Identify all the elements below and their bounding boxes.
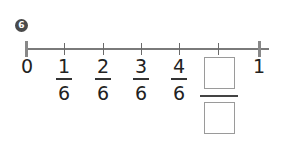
label-zero: 0 xyxy=(21,55,33,77)
fraction-bar xyxy=(171,78,187,80)
tick-two-sixths xyxy=(103,43,104,55)
tick-four-sixths xyxy=(179,43,180,55)
tick-one-sixth xyxy=(64,43,65,55)
tick-five-sixths xyxy=(218,43,219,55)
answer-fraction-bar xyxy=(200,95,238,97)
fraction-label: 2 6 xyxy=(95,56,111,103)
numerator: 4 xyxy=(173,56,185,76)
problem-number-badge: 6 xyxy=(15,19,28,32)
denominator: 6 xyxy=(97,83,109,103)
denominator: 6 xyxy=(58,83,70,103)
denominator: 6 xyxy=(173,83,185,103)
numerator: 1 xyxy=(58,56,70,76)
label-one: 1 xyxy=(253,55,265,77)
answer-fraction xyxy=(200,57,238,134)
fraction-label: 4 6 xyxy=(171,56,187,103)
number-line xyxy=(25,48,269,50)
answer-denominator-box[interactable] xyxy=(204,102,235,134)
fraction-bar xyxy=(56,78,72,80)
denominator: 6 xyxy=(135,83,147,103)
fraction-label: 1 6 xyxy=(56,56,72,103)
fraction-label: 3 6 xyxy=(133,56,149,103)
fraction-bar xyxy=(133,78,149,80)
tick-three-sixths xyxy=(141,43,142,55)
fraction-bar xyxy=(95,78,111,80)
numerator: 3 xyxy=(135,56,147,76)
numerator: 2 xyxy=(97,56,109,76)
answer-numerator-box[interactable] xyxy=(204,57,235,89)
